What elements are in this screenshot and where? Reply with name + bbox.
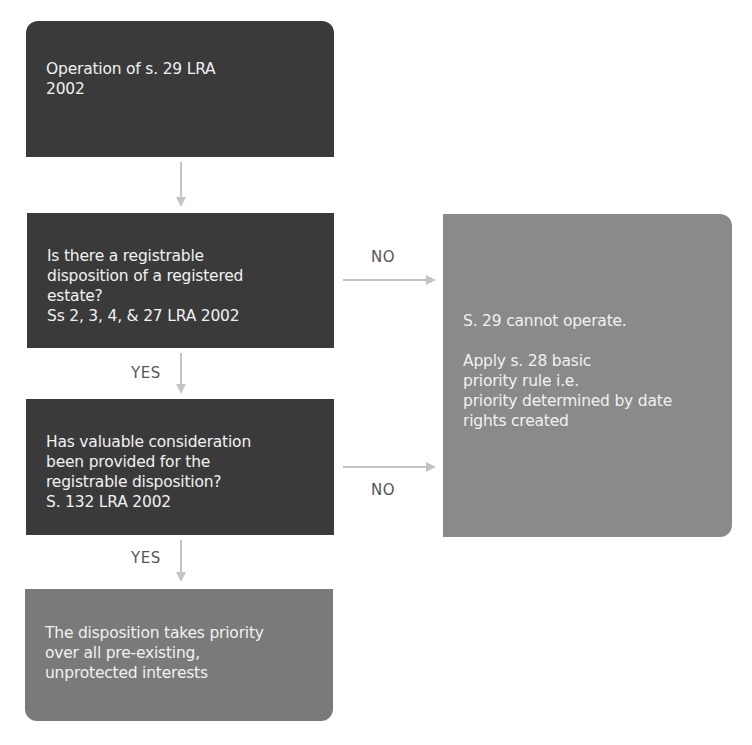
outcome-yes-box: The disposition takes priority over all …	[25, 589, 333, 721]
outcome-no-text: priority rule i.e.	[463, 371, 712, 391]
q1-yes-label: YES	[131, 364, 161, 382]
question2-box: Has valuable consideration been provided…	[26, 399, 334, 535]
outcome-yes-text: The disposition takes priority	[45, 623, 313, 643]
q2-no-label: NO	[371, 481, 395, 499]
outcome-no-box: S. 29 cannot operate. Apply s. 28 basic …	[443, 214, 732, 537]
question2-text: been provided for the	[46, 452, 314, 472]
outcome-no-heading: S. 29 cannot operate.	[463, 311, 712, 331]
q2-yes-label: YES	[131, 549, 161, 567]
outcome-yes-text: over all pre-existing,	[45, 643, 313, 663]
start-box: Operation of s. 29 LRA 2002	[26, 21, 334, 157]
outcome-no-text: Apply s. 28 basic	[463, 351, 712, 371]
question1-text: Is there a registrable	[47, 246, 314, 266]
start-text: 2002	[46, 79, 314, 99]
outcome-no-text: rights created	[463, 411, 712, 431]
question1-box: Is there a registrable disposition of a …	[27, 213, 334, 348]
start-text: Operation of s. 29 LRA	[46, 59, 314, 79]
question1-text: disposition of a registered	[47, 266, 314, 286]
question2-text: registrable disposition?	[46, 472, 314, 492]
outcome-no-text: priority determined by date	[463, 391, 712, 411]
q1-no-label: NO	[371, 248, 395, 266]
question1-text: estate?	[47, 286, 314, 306]
question2-citation: S. 132 LRA 2002	[46, 492, 314, 512]
question2-text: Has valuable consideration	[46, 432, 314, 452]
outcome-yes-text: unprotected interests	[45, 663, 313, 683]
question1-citation: Ss 2, 3, 4, & 27 LRA 2002	[47, 306, 314, 326]
